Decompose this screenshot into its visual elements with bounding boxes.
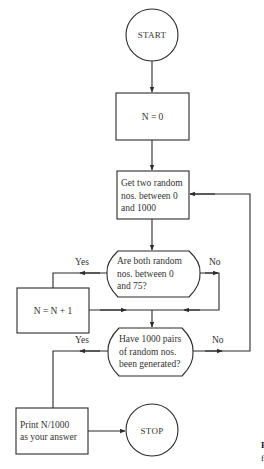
- stop-label: STOP: [126, 424, 178, 438]
- check-count-label: Have 1000 pairs of random nos. been gene…: [119, 333, 195, 371]
- output-label-line-2: as your answer: [20, 431, 90, 444]
- check-range-yes-label: Yes: [75, 256, 89, 268]
- generate-label-line-3: and 1000: [121, 202, 191, 215]
- connector-check-count-no: [190, 194, 250, 351]
- check-range-label: Are both random nos. between 0 and 75?: [117, 255, 197, 293]
- init-label: N = 0: [116, 110, 189, 124]
- check-range-label-line-3: and 75?: [117, 280, 197, 293]
- generate-label-line-2: nos. between 0: [121, 190, 191, 203]
- check-count-yes-label: Yes: [75, 334, 89, 346]
- caption-fragment-line-2: f: [261, 453, 264, 463]
- check-count-no-label: No: [212, 334, 224, 346]
- connector-check-count-yes: [53, 351, 108, 408]
- increment-label: N = N + 1: [17, 304, 89, 318]
- generate-label-line-1: Get two random: [121, 177, 191, 190]
- check-range-label-line-2: nos. between 0: [117, 268, 197, 281]
- flowchart-canvas: [0, 0, 264, 469]
- start-label: START: [126, 28, 178, 42]
- check-count-label-line-2: of random nos.: [119, 346, 195, 359]
- caption-fragment-line-1: F: [261, 440, 264, 450]
- connector-check-range-yes: [53, 273, 107, 288]
- output-label: Print N/1000 as your answer: [20, 417, 90, 445]
- check-count-label-line-3: been generated?: [119, 358, 195, 371]
- check-range-label-line-1: Are both random: [117, 255, 197, 268]
- output-label-line-1: Print N/1000: [20, 419, 90, 432]
- check-range-no-label: No: [209, 256, 221, 268]
- generate-label: Get two random nos. between 0 and 1000: [121, 176, 191, 216]
- check-count-label-line-1: Have 1000 pairs: [119, 333, 195, 346]
